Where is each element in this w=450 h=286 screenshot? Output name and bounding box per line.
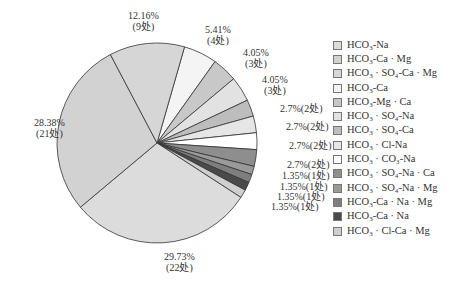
legend-label: HCO3 · SO₄-Ca [347, 124, 414, 137]
legend-label: HCO3-Ca · Na [347, 210, 409, 223]
legend-item: HCO3-Na [333, 38, 438, 52]
slice-label: 2.7%(2处) [287, 159, 330, 170]
legend-swatch-icon [333, 141, 342, 150]
legend-item: HCO3 · SO₄-Na [333, 109, 438, 123]
slice-count: (9处) [128, 21, 159, 32]
legend-item: HCO3 · Cl-Ca · Mg [333, 224, 438, 238]
slice-count: (3处) [243, 58, 269, 69]
legend-label: HCO3 · SO₄-Ca · Mg [347, 67, 437, 80]
slice-label: 5.41%(4处) [205, 24, 231, 46]
legend-label: HCO3 · Cl-Na [347, 139, 407, 152]
slice-label: 12.16%(9处) [128, 10, 159, 32]
slice-percent: 2.7%(2处) [289, 140, 332, 151]
slice-percent: 4.05% [243, 47, 269, 58]
legend: HCO3-NaHCO3-Ca · MgHCO3 · SO₄-Ca · MgHCO… [333, 38, 438, 238]
slice-label: 2.7%(2处) [280, 103, 323, 114]
legend-item: HCO3 · SO₄-Ca · Mg [333, 67, 438, 81]
legend-swatch-icon [333, 112, 342, 121]
legend-item: HCO3 · SO₄-Na · Ca [333, 167, 438, 181]
legend-label: HCO3 · SO₄-Na [347, 110, 414, 123]
legend-swatch-icon [333, 55, 342, 64]
slice-percent: 2.7%(2处) [280, 103, 323, 114]
slice-label: 2.7%(2处) [289, 140, 332, 151]
slice-percent: 5.41% [205, 24, 231, 35]
legend-swatch-icon [333, 169, 342, 178]
legend-swatch-icon [333, 98, 342, 107]
legend-swatch-icon [333, 84, 342, 93]
slice-percent: 4.05% [262, 74, 288, 85]
legend-swatch-icon [333, 69, 342, 78]
legend-item: HCO3 · SO₄-Ca [333, 124, 438, 138]
legend-swatch-icon [333, 227, 342, 236]
slice-label: 2.7%(2处) [286, 121, 329, 132]
legend-item: HCO3-Ca [333, 81, 438, 95]
slice-percent: 12.16% [128, 10, 159, 21]
legend-label: HCO3-Ca [347, 82, 388, 95]
legend-label: HCO3 · SO₄-Na · Mg [347, 182, 438, 195]
legend-swatch-icon [333, 212, 342, 221]
slice-label: 29.73%(22处) [164, 251, 195, 273]
legend-item: HCO3 · Cl-Na [333, 138, 438, 152]
legend-label: HCO3 · Cl-Ca · Mg [347, 225, 430, 238]
legend-label: HCO3-Na [347, 39, 388, 52]
legend-swatch-icon [333, 184, 342, 193]
legend-item: HCO3 · CO₃-Na [333, 152, 438, 166]
slice-label: 4.05%(3处) [262, 74, 288, 96]
slice-percent: 2.7%(2处) [286, 121, 329, 132]
slice-count: (3处) [262, 85, 288, 96]
legend-item: HCO3-Ca · Na [333, 210, 438, 224]
legend-label: HCO3-Ca · Mg [347, 53, 411, 66]
legend-item: HCO3-Mg · Ca [333, 95, 438, 109]
legend-label: HCO3 · CO₃-Na [347, 153, 415, 166]
slice-percent: 2.7%(2处) [287, 159, 330, 170]
slice-label: 1.35%(1处) [282, 170, 330, 181]
legend-item: HCO3-Ca · Na · Mg [333, 195, 438, 209]
legend-label: HCO3-Ca · Na · Mg [347, 196, 432, 209]
slice-percent: 28.38% [34, 117, 65, 128]
legend-label: HCO3 · SO₄-Na · Ca [347, 167, 435, 180]
legend-label: HCO3-Mg · Ca [347, 96, 411, 109]
slice-count: (4处) [205, 35, 231, 46]
slice-count: (21处) [34, 128, 65, 139]
slice-percent: 1.35%(1处) [282, 170, 330, 181]
legend-item: HCO3 · SO₄-Na · Mg [333, 181, 438, 195]
slice-percent: 29.73% [164, 251, 195, 262]
legend-item: HCO3-Ca · Mg [333, 52, 438, 66]
legend-swatch-icon [333, 155, 342, 164]
legend-swatch-icon [333, 41, 342, 50]
slice-label: 28.38%(21处) [34, 117, 65, 139]
legend-swatch-icon [333, 198, 342, 207]
legend-swatch-icon [333, 126, 342, 135]
slice-label: 4.05%(3处) [243, 47, 269, 69]
slice-label: 1.35%(1处) [271, 201, 319, 212]
slice-count: (22处) [164, 262, 195, 273]
slice-percent: 1.35%(1处) [271, 201, 319, 212]
